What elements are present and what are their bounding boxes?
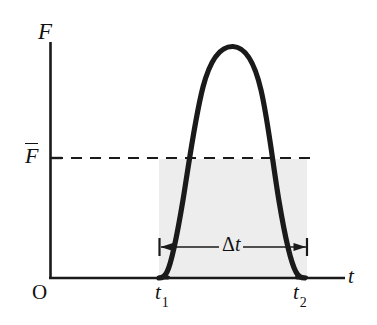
delta-symbol: Δ — [222, 233, 235, 255]
t2-tick-label: t2 — [293, 282, 306, 307]
delta-t-variable: t — [235, 233, 241, 255]
y-axis-label: F — [38, 20, 52, 43]
delta-t-label: Δt — [219, 234, 243, 254]
plot-canvas — [0, 0, 377, 325]
average-force-glyph: F — [25, 143, 38, 167]
t2-subscript: 2 — [300, 295, 307, 310]
t1-tick-label: t1 — [155, 282, 168, 307]
x-axis-label: t — [348, 266, 354, 287]
t1-subscript: 1 — [162, 295, 169, 310]
average-force-label: F — [25, 143, 38, 167]
origin-label: O — [32, 282, 47, 303]
t2-variable: t — [293, 280, 299, 304]
t1-variable: t — [155, 280, 161, 304]
impulse-diagram: F t O F t1 t2 Δt — [0, 0, 377, 325]
